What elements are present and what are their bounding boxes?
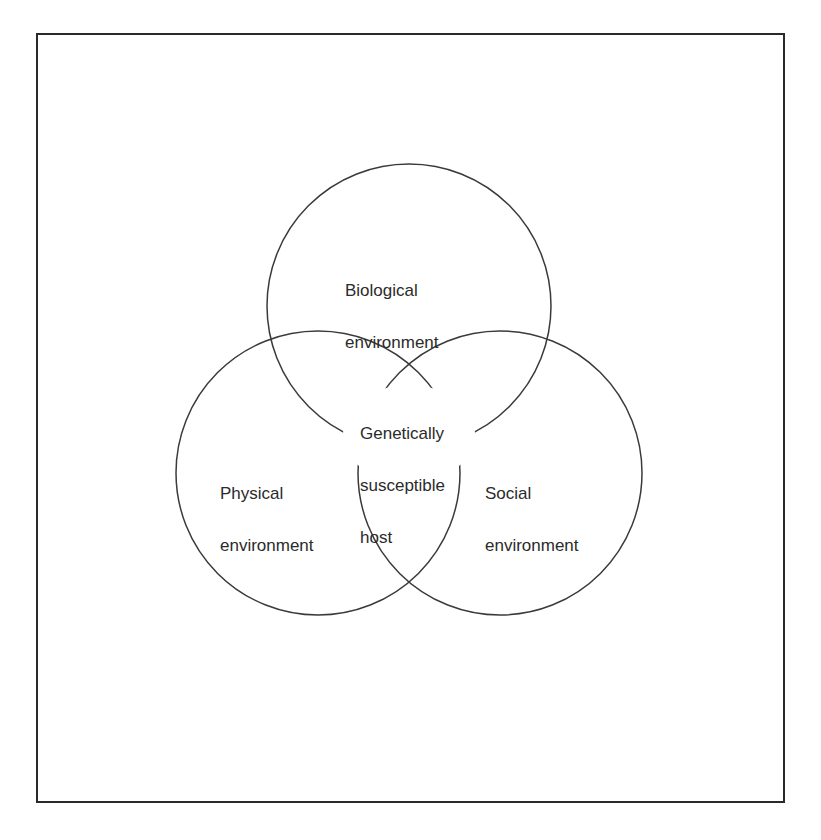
physical-label-line2: environment: [220, 533, 314, 559]
biological-label-line1: Biological: [345, 278, 439, 304]
host-label-line3: host: [360, 525, 445, 551]
social-environment-label: Social environment: [485, 455, 579, 585]
social-label-line1: Social: [485, 481, 579, 507]
genetically-susceptible-host-label: Genetically susceptible host: [360, 395, 445, 577]
host-label-line1: Genetically: [360, 421, 445, 447]
social-label-line2: environment: [485, 533, 579, 559]
physical-environment-label: Physical environment: [220, 455, 314, 585]
host-label-line2: susceptible: [360, 473, 445, 499]
biological-label-line2: environment: [345, 330, 439, 356]
physical-label-line1: Physical: [220, 481, 314, 507]
biological-environment-label: Biological environment: [345, 252, 439, 382]
